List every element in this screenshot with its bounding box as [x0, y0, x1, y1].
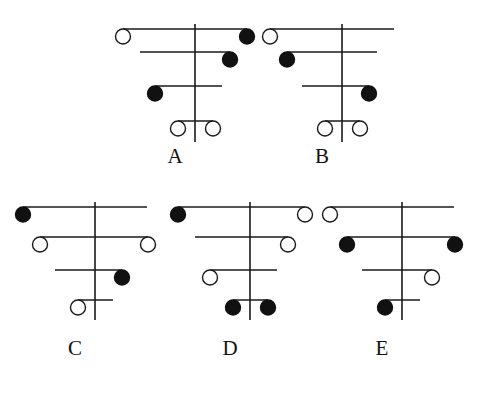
node-filled-row1-left[interactable] — [16, 207, 31, 222]
node-open-row2-right[interactable] — [141, 237, 156, 252]
diagram-label-c: C — [55, 338, 95, 359]
node-filled-row1-left[interactable] — [171, 207, 186, 222]
tree-diagram-graphic — [322, 192, 482, 328]
node-filled-row3-right[interactable] — [362, 86, 377, 101]
node-open-row4-left[interactable] — [171, 121, 186, 136]
tree-diagram-d[interactable] — [170, 192, 330, 328]
tree-diagram-c[interactable] — [15, 192, 175, 328]
node-filled-row3-left[interactable] — [148, 86, 163, 101]
node-filled-row1-right[interactable] — [240, 29, 255, 44]
node-open-row3-left[interactable] — [203, 270, 218, 285]
node-open-row1-left[interactable] — [116, 29, 131, 44]
tree-diagram-graphic — [262, 14, 422, 150]
node-open-row4-right[interactable] — [206, 121, 221, 136]
tree-diagram-b[interactable] — [262, 14, 422, 150]
tree-diagram-graphic — [115, 14, 275, 150]
diagram-label-e: E — [362, 338, 402, 359]
node-filled-row2-left[interactable] — [280, 52, 295, 67]
tree-diagram-graphic — [170, 192, 330, 328]
node-filled-row4-right[interactable] — [261, 300, 276, 315]
diagram-label-b: B — [302, 146, 342, 167]
diagram-label-d: D — [210, 338, 250, 359]
node-open-row2-left[interactable] — [33, 237, 48, 252]
node-open-row1-right[interactable] — [298, 207, 313, 222]
node-filled-row2-right[interactable] — [223, 52, 238, 67]
node-filled-row2-right[interactable] — [448, 237, 463, 252]
node-filled-row4-left[interactable] — [378, 300, 393, 315]
node-filled-row2-left[interactable] — [340, 237, 355, 252]
node-open-row4-left[interactable] — [318, 121, 333, 136]
node-open-row1-left[interactable] — [263, 29, 278, 44]
node-open-row3-right[interactable] — [425, 270, 440, 285]
tree-diagram-a[interactable] — [115, 14, 275, 150]
node-open-row1-left[interactable] — [323, 207, 338, 222]
node-open-row4-right[interactable] — [353, 121, 368, 136]
node-filled-row4-left[interactable] — [226, 300, 241, 315]
node-open-row4-left[interactable] — [71, 300, 86, 315]
tree-diagram-graphic — [15, 192, 175, 328]
tree-diagram-e[interactable] — [322, 192, 482, 328]
diagram-label-a: A — [155, 146, 195, 167]
node-open-row2-right[interactable] — [281, 237, 296, 252]
node-filled-row3-right[interactable] — [115, 270, 130, 285]
figure-canvas: ABCDE — [0, 0, 486, 400]
